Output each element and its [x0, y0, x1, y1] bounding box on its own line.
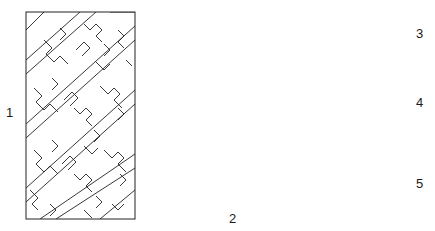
panel-2-label: 2: [229, 212, 236, 225]
pattern-figure: [0, 0, 435, 231]
panel-1-fret-pattern: [26, 12, 135, 219]
panel-3-label: 3: [416, 27, 423, 40]
panel-5-label: 5: [416, 177, 423, 190]
panel-1-label: 1: [6, 106, 13, 119]
panel-4-label: 4: [416, 96, 423, 109]
